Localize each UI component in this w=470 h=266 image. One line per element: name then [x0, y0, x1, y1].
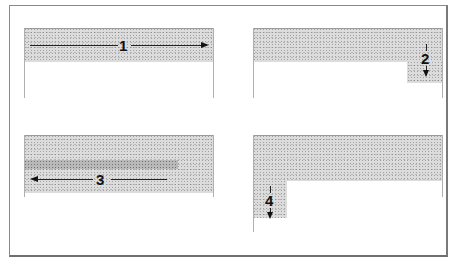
- panel-left-edge: [24, 28, 25, 98]
- step-number: 1: [119, 38, 127, 53]
- step-number: 4: [265, 193, 273, 208]
- panel-1: 1: [24, 28, 214, 98]
- arrow-right-icon: [201, 42, 209, 48]
- dark-band: [24, 160, 178, 169]
- panel-right-edge: [213, 135, 214, 197]
- panel-left-edge: [253, 28, 254, 98]
- arrow-shaft-left: [30, 45, 118, 46]
- panel-3: 3: [24, 135, 214, 197]
- panel-2: 2: [253, 28, 443, 98]
- filled-region: [253, 135, 443, 181]
- panel-left-edge: [253, 135, 254, 232]
- filled-region: [253, 28, 443, 62]
- step-number: 2: [421, 51, 429, 66]
- panel-top-edge: [253, 135, 443, 136]
- arrow-shaft-right: [111, 179, 167, 180]
- panel-top-edge: [253, 28, 443, 29]
- panel-right-edge: [213, 28, 214, 98]
- panel-left-edge: [24, 135, 25, 197]
- panel-4: 4: [253, 135, 443, 232]
- arrow-down-icon: [267, 212, 273, 219]
- step-number: 3: [96, 172, 104, 187]
- panel-right-edge: [442, 135, 443, 197]
- panel-top-edge: [24, 135, 214, 136]
- arrow-shaft-left: [36, 179, 93, 180]
- panel-right-edge: [442, 28, 443, 98]
- panel-top-edge: [24, 28, 214, 29]
- arrow-down-icon: [423, 70, 429, 77]
- arrow-shaft-right: [131, 45, 202, 46]
